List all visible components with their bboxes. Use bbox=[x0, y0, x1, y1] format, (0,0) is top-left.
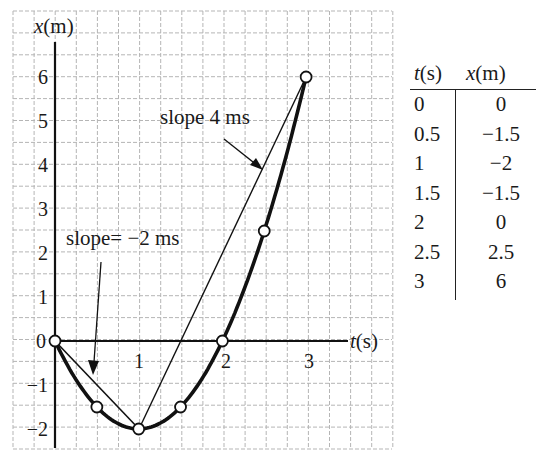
data-point-marker bbox=[91, 402, 102, 413]
table-row: 36 bbox=[410, 267, 536, 297]
cell-x: −1.5 bbox=[460, 181, 536, 206]
table-header: t(s) x(m) bbox=[410, 56, 536, 90]
cell-x: 0 bbox=[460, 92, 536, 117]
data-point-marker bbox=[175, 402, 186, 413]
header-x-var: x bbox=[466, 61, 475, 85]
y-tick-label: 6 bbox=[38, 66, 48, 88]
y-tick-labels: 6 5 4 3 2 1 0 −1 −2 bbox=[27, 66, 48, 440]
y-tick-label: 0 bbox=[36, 330, 46, 352]
cell-x: −2 bbox=[460, 151, 536, 176]
y-axis-label: x(m) bbox=[33, 14, 74, 38]
table-row: 2.52.5 bbox=[410, 238, 536, 268]
header-x: x(m) bbox=[460, 61, 536, 86]
table-row: 0.5−1.5 bbox=[410, 120, 536, 150]
annotation-slope-4: slope 4 ms bbox=[160, 105, 250, 129]
data-point-marker bbox=[301, 72, 312, 83]
data-point-marker bbox=[217, 336, 228, 347]
cell-t: 2 bbox=[410, 210, 460, 235]
data-point-marker bbox=[259, 226, 270, 237]
cell-x: −1.5 bbox=[460, 122, 536, 147]
chord-slope-4 bbox=[139, 77, 306, 429]
table-row: 20 bbox=[410, 208, 536, 238]
y-tick-label: 3 bbox=[38, 198, 48, 220]
cell-t: 1 bbox=[410, 151, 460, 176]
cell-x: 2.5 bbox=[460, 240, 536, 265]
cell-x: 0 bbox=[460, 210, 536, 235]
cell-t: 3 bbox=[410, 269, 460, 294]
position-curve bbox=[55, 77, 306, 429]
header-t-unit: (s) bbox=[420, 61, 442, 85]
cell-x: 6 bbox=[460, 269, 536, 294]
cell-t: 1.5 bbox=[410, 181, 460, 206]
y-tick-label: 2 bbox=[38, 242, 48, 264]
x-tick-label: 1 bbox=[134, 350, 144, 372]
data-point-marker bbox=[133, 424, 144, 435]
data-table: t(s) x(m) 00 0.5−1.5 1−2 1.5−1.5 20 2.52… bbox=[410, 56, 536, 297]
table-body: 00 0.5−1.5 1−2 1.5−1.5 20 2.52.5 36 bbox=[410, 90, 536, 297]
y-tick-label: −2 bbox=[27, 418, 48, 440]
cell-t: 0.5 bbox=[410, 122, 460, 147]
cell-t: 0 bbox=[410, 92, 460, 117]
table-row: 00 bbox=[410, 90, 536, 120]
table-row: 1−2 bbox=[410, 149, 536, 179]
y-tick-label: −1 bbox=[27, 374, 48, 396]
header-x-unit: (m) bbox=[475, 61, 505, 85]
y-tick-label: 5 bbox=[38, 110, 48, 132]
header-t: t(s) bbox=[410, 61, 460, 86]
table-row: 1.5−1.5 bbox=[410, 179, 536, 209]
annotation-slope-neg2: slope= −2 ms bbox=[66, 226, 180, 250]
x-axis-label: t(s) bbox=[350, 329, 378, 353]
cell-t: 2.5 bbox=[410, 240, 460, 265]
x-tick-label: 3 bbox=[304, 350, 314, 372]
data-point-marker bbox=[50, 336, 61, 347]
y-tick-label: 1 bbox=[38, 286, 48, 308]
x-tick-label: 2 bbox=[221, 350, 231, 372]
y-tick-label: 4 bbox=[38, 154, 48, 176]
